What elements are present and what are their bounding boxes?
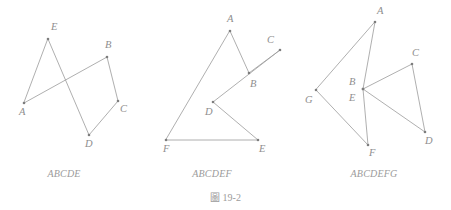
vertex-label-f: F <box>369 148 375 159</box>
vertex-point-f <box>165 139 168 142</box>
vertex-point-d <box>212 101 215 104</box>
vertex-point-e <box>257 139 260 142</box>
vertex-point-f <box>367 144 370 147</box>
vertex-label-c: C <box>412 48 419 59</box>
polygon-figure-abcdefg <box>316 22 425 145</box>
vertex-label-g: G <box>305 95 313 106</box>
vertex-label-c: C <box>267 35 274 46</box>
vertex-point-g <box>315 89 318 92</box>
caption-figure-abcdef: ABCDEF <box>152 168 272 179</box>
vertex-point-c <box>411 63 414 66</box>
polygon-group <box>23 21 427 147</box>
vertex-label-d: D <box>205 107 213 118</box>
vertex-label-f: F <box>163 144 169 155</box>
vertex-label-c: C <box>120 104 127 115</box>
vertex-point-e <box>362 88 365 91</box>
caption-figure-abcdefg: ABCDEFG <box>314 168 434 179</box>
polygon-figure-abcde <box>24 39 118 135</box>
caption-figure-abcde: ABCDE <box>4 168 124 179</box>
vertex-point-c <box>279 49 282 52</box>
vertex-point-c <box>117 100 120 103</box>
vertex-label-a: A <box>19 107 25 118</box>
vertex-label-d: D <box>425 136 433 147</box>
vertex-point-a <box>374 21 377 24</box>
vertex-label-b: B <box>349 77 355 88</box>
vertex-label-b: B <box>250 79 256 90</box>
vertex-label-a: A <box>377 6 383 17</box>
polygon-figure-abcdef <box>166 31 280 140</box>
vertex-label-b: B <box>105 40 111 51</box>
vertex-point-d <box>424 131 427 134</box>
vertex-label-e: E <box>349 93 355 104</box>
vertex-label-a: A <box>227 14 233 25</box>
vertex-point-a <box>229 30 232 33</box>
figure-plate: ABCDEABCDEFABCDEFG ABCDEABCDEFABCDEFG 圖 … <box>0 0 451 210</box>
vertex-point-d <box>88 134 91 137</box>
vertex-point-a <box>23 102 26 105</box>
vertex-point-b <box>248 72 251 75</box>
vertex-label-d: D <box>85 139 93 150</box>
plate-caption: 圖 19-2 <box>0 189 451 204</box>
vertex-label-e: E <box>259 144 265 155</box>
vertex-label-e: E <box>51 22 57 33</box>
vertex-point-e <box>47 38 50 41</box>
vertex-point-b <box>106 56 109 59</box>
